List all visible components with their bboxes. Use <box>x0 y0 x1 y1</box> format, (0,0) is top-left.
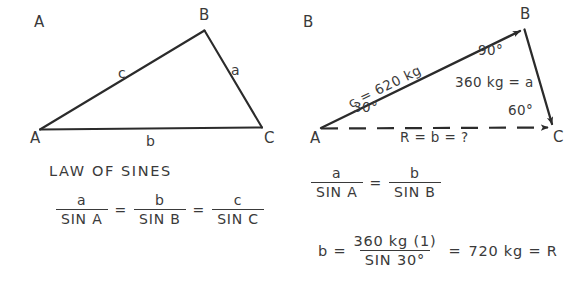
panel-b-ratio-term-2: b SIN B <box>389 166 441 199</box>
panel-a-term-3-den: SIN C <box>212 209 264 227</box>
panel-a-heading: LAW OF SINES <box>49 164 172 179</box>
panel-b-angle-b: 90° <box>478 44 503 58</box>
panel-a-triangle <box>40 31 262 130</box>
panel-a-term-3: c SIN C <box>212 193 264 226</box>
panel-b-ratio-term-1: a SIN A <box>311 166 363 199</box>
panel-b-ratio-operator: = <box>363 175 390 191</box>
law-of-sines-figure: A A B C c a b LAW OF SINES a SIN A = b S… <box>0 0 582 290</box>
panel-a-term-2: b SIN B <box>134 193 186 226</box>
panel-b-equation-solution: b = 360 kg (1) SIN 30° = 720 kg = R <box>318 234 558 268</box>
panel-a-side-label-a: a <box>231 63 240 77</box>
panel-b-vertex-c: C <box>553 130 564 145</box>
panel-b-ratio-term-1-den: SIN A <box>311 182 363 200</box>
panel-b-angle-a: 30° <box>353 101 378 115</box>
panel-b-solution-result: 720 kg = R <box>468 243 557 259</box>
panel-a-equation: a SIN A = b SIN B = c SIN C <box>56 193 264 226</box>
panel-a-term-3-num: c <box>229 193 248 209</box>
panel-b-solution-fraction: 360 kg (1) SIN 30° <box>348 234 441 268</box>
panel-a-term-2-num: b <box>150 193 170 209</box>
panel-b-ratio-term-2-num: b <box>405 166 425 182</box>
panel-a-vertex-a: A <box>30 131 41 146</box>
panel-b-vertex-b: B <box>520 7 531 22</box>
panel-b-solution-num: 360 kg (1) <box>348 234 441 250</box>
panel-a-operator-2: = <box>186 202 213 218</box>
panel-a-term-1-den: SIN A <box>56 209 108 227</box>
panel-b-vector-resultant-label: R = b = ? <box>400 131 469 145</box>
panel-a-side-label-c: c <box>118 66 126 80</box>
panel-b-ratio-term-1-num: a <box>327 166 346 182</box>
panel-a-side-ac <box>40 128 262 130</box>
panel-a-vertex-c: C <box>264 131 275 146</box>
panel-b-angle-c: 60° <box>508 104 533 118</box>
panel-b-solution-den: SIN 30° <box>360 250 430 268</box>
panel-a-term-1: a SIN A <box>56 193 108 226</box>
panel-a-vertex-b: B <box>199 8 210 23</box>
panel-b-letter: B <box>303 15 314 30</box>
panel-a-side-label-b: b <box>146 134 155 148</box>
panel-b-solution-lead: b = <box>318 243 348 259</box>
panel-b-vector-a-label: 360 kg = a <box>455 76 534 90</box>
panel-a-term-1-num: a <box>72 193 91 209</box>
panel-b-solution-operator: = <box>441 243 468 259</box>
panel-a-side-bc <box>205 31 263 128</box>
panel-a-operator-1: = <box>108 202 135 218</box>
panel-b-ratio-term-2-den: SIN B <box>389 182 441 200</box>
panel-b-equation-ratio: a SIN A = b SIN B <box>311 166 441 199</box>
panel-a-letter: A <box>34 15 45 30</box>
panel-b-vertex-a: A <box>310 131 321 146</box>
panel-a-term-2-den: SIN B <box>134 209 186 227</box>
